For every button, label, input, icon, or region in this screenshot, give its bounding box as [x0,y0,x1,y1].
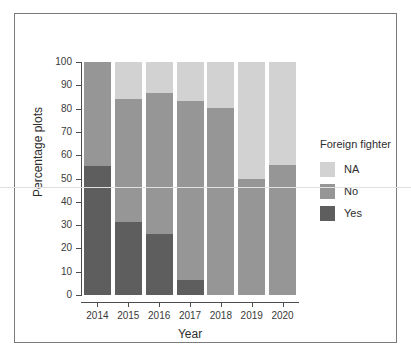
bar-segment-yes[interactable] [115,222,142,295]
x-tick-mark [283,302,284,307]
bar-segment-yes[interactable] [146,234,173,295]
plot-area [82,62,298,295]
bar-segment-na[interactable] [269,62,296,165]
y-tick-mark [76,155,81,156]
y-tick-mark [76,248,81,249]
bar-segment-yes[interactable] [177,280,204,295]
y-tick-mark [76,132,81,133]
legend-label: NA [344,163,359,175]
legend-item-na[interactable]: NA [320,158,391,180]
bar-segment-no[interactable] [238,179,265,295]
legend: Foreign fighter NANoYes [320,138,391,224]
y-tick-mark [76,295,81,296]
bar-stack[interactable] [207,62,234,295]
legend-label: No [344,185,358,197]
y-tick-mark [76,202,81,203]
y-tick-label: 80 [46,104,72,114]
bar-segment-na[interactable] [177,62,204,101]
y-tick-label: 10 [46,267,72,277]
y-tick-mark [76,62,81,63]
bar-stack[interactable] [115,62,142,295]
bar-segment-no[interactable] [269,165,296,295]
x-tick-mark [128,302,129,307]
legend-label: Yes [344,207,362,219]
y-tick-label: 90 [46,80,72,90]
bar-stack[interactable] [269,62,296,295]
bar-stack[interactable] [146,62,173,295]
x-tick-mark [252,302,253,307]
x-axis-title: Year [82,327,298,341]
x-tick-label: 2020 [263,310,303,321]
legend-item-yes[interactable]: Yes [320,202,391,224]
y-tick-label: 20 [46,243,72,253]
y-tick-mark [76,272,81,273]
bar-segment-yes[interactable] [84,166,111,295]
legend-swatch-no [320,184,335,199]
bar-segment-na[interactable] [207,62,234,108]
y-tick-label: 50 [46,174,72,184]
bar-segment-no[interactable] [84,62,111,166]
y-tick-mark [76,179,81,180]
x-tick-mark [190,302,191,307]
y-tick-mark [76,85,81,86]
bar-segment-no[interactable] [115,99,142,222]
legend-item-no[interactable]: No [320,180,391,202]
y-tick-label: 100 [46,57,72,67]
y-axis-title: Percentage plots [31,77,45,227]
legend-title: Foreign fighter [320,138,391,150]
bar-segment-no[interactable] [207,108,234,295]
y-tick-label: 30 [46,220,72,230]
y-tick-label: 0 [46,290,72,300]
bar-stack[interactable] [84,62,111,295]
x-tick-mark [159,302,160,307]
legend-swatch-yes [320,206,335,221]
y-tick-label: 70 [46,127,72,137]
bar-segment-no[interactable] [146,93,173,234]
bar-stack[interactable] [238,62,265,295]
y-tick-mark [76,109,81,110]
bar-stack[interactable] [177,62,204,295]
bar-segment-na[interactable] [238,62,265,179]
bar-segment-na[interactable] [146,62,173,93]
y-tick-mark [76,225,81,226]
y-tick-label: 60 [46,150,72,160]
bar-segment-no[interactable] [177,101,204,280]
chart-figure-frame: 0102030405060708090100 20142015201620172… [14,13,397,343]
legend-swatch-na [320,162,335,177]
bar-segment-na[interactable] [115,62,142,99]
y-tick-label: 40 [46,197,72,207]
x-tick-mark [97,302,98,307]
legend-items: NANoYes [320,158,391,224]
x-tick-mark [221,302,222,307]
